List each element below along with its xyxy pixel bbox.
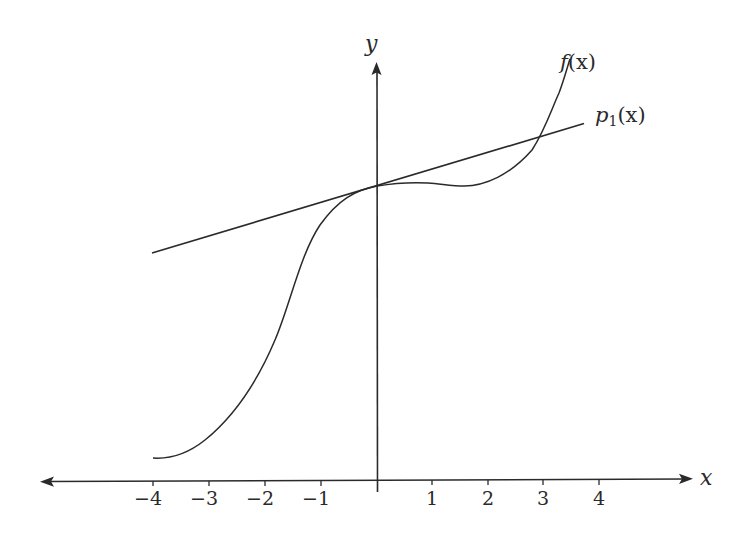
curve-label-p-arg: (x) [617,103,645,127]
x-tick-label: −4 [134,489,162,508]
tangent-line-figure [0,0,756,542]
x-tick-label: −2 [246,489,274,508]
x-tick-label: 1 [426,489,438,508]
y-axis-label: y [365,33,377,55]
x-tick-label: −3 [190,489,218,508]
x-tick-label: 3 [537,489,549,508]
x-tick-label: 4 [593,489,605,508]
curve-label-f: f(x) [560,52,596,73]
x-axis-label: x [700,467,712,489]
curve-label-f-name: f [560,50,568,74]
curve-label-f-arg: (x) [568,50,596,74]
x-tick-label: −1 [302,489,330,508]
curve-label-p-name: p [595,103,608,127]
x-axis [40,474,693,487]
y-axis [372,62,382,492]
curve-label-p1: p1(x) [595,105,646,128]
x-tick-label: 2 [482,489,494,508]
curve-f [153,59,570,458]
curve-label-f-arg-text: (x) [568,50,596,74]
